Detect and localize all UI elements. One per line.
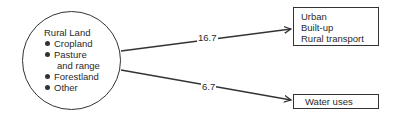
flow-value-water: 6.7 [201, 82, 216, 92]
list-item: Cropland [45, 38, 100, 49]
list-item: Other [45, 82, 100, 93]
rural-land-title: Rural Land [44, 27, 90, 38]
urban-node: Urban Built-up Rural transport [293, 7, 379, 46]
bullet-icon [45, 41, 50, 46]
water-uses-node: Water uses [293, 94, 379, 109]
bullet-icon [45, 85, 50, 90]
flow-value-urban: 16.7 [197, 33, 218, 43]
bullet-icon [45, 74, 50, 79]
list-item: Pastureand range [45, 49, 100, 71]
bullet-icon [45, 52, 50, 57]
list-item: Forestland [45, 71, 100, 82]
rural-land-list: Cropland Pastureand range Forestland Oth… [45, 38, 100, 93]
